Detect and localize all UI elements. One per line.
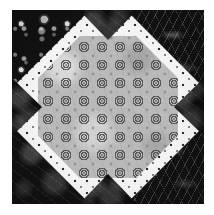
medallion-connector-dots bbox=[38, 36, 178, 178]
quilt-block bbox=[12, 10, 204, 204]
quilt-block-caption: Square patchwork block with white polka-… bbox=[0, 0, 1, 1]
quilt-image: Square patchwork block with white polka-… bbox=[0, 0, 214, 215]
center-octagon-patch bbox=[38, 36, 178, 178]
